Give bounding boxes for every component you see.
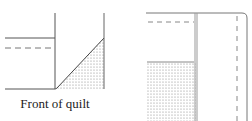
rounded-corner xyxy=(242,13,247,121)
front-of-quilt-caption: Front of quilt xyxy=(0,96,110,112)
shaded-block xyxy=(147,62,196,121)
left-panel-front-of-quilt xyxy=(5,13,104,89)
right-panel-back-view xyxy=(146,13,247,121)
